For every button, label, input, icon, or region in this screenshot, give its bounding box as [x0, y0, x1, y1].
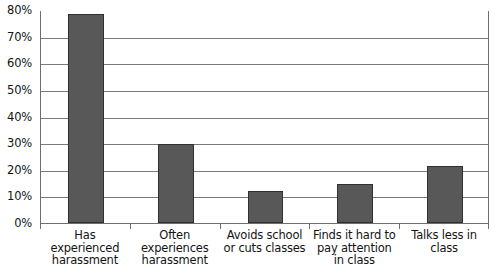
y-axis-tick-label: 20%: [7, 165, 32, 177]
y-axis-tick-label: 50%: [7, 85, 32, 97]
x-axis-category-label: Finds it hard topay attentionin class: [309, 229, 399, 266]
y-axis-tick-label: 10%: [7, 192, 32, 204]
x-axis-category-label-line: Avoids school: [220, 229, 310, 242]
y-axis-tick-label: 70%: [7, 32, 32, 44]
x-axis-category-label-line: Talks less in: [399, 229, 489, 242]
bar: [248, 191, 284, 223]
y-axis-tick-labels: 0%10%20%30%40%50%60%70%80%: [0, 0, 36, 224]
x-axis-category-label-line: Has: [40, 229, 130, 242]
bar-chart: 0%10%20%30%40%50%60%70%80% Hasexperience…: [0, 0, 495, 266]
x-axis-category-label: Oftenexperiencesharassment: [130, 229, 220, 266]
plot-area: [40, 11, 489, 224]
x-axis-category-label: Avoids schoolor cuts classes: [220, 229, 310, 254]
x-axis-category-label: Hasexperiencedharassment: [40, 229, 130, 266]
bar: [158, 144, 194, 223]
x-axis-category-label-line: class: [399, 242, 489, 255]
x-axis-category-label-line: or cuts classes: [220, 242, 310, 255]
x-axis-category-label-line: harassment: [130, 254, 220, 266]
y-axis-tick-label: 80%: [7, 5, 32, 17]
x-axis-category-labels: HasexperiencedharassmentOftenexperiences…: [40, 229, 489, 266]
bar: [337, 184, 373, 223]
x-axis-category-label-line: harassment: [40, 254, 130, 266]
x-axis-category-label: Talks less inclass: [399, 229, 489, 254]
bar: [68, 14, 104, 223]
bar: [427, 166, 463, 223]
y-axis-tick-label: 30%: [7, 138, 32, 150]
x-axis-category-label-line: Often: [130, 229, 220, 242]
y-axis-tick-label: 0%: [14, 218, 32, 230]
y-axis-tick-label: 60%: [7, 59, 32, 71]
y-axis-tick-label: 40%: [7, 112, 32, 124]
x-axis-category-label-line: Finds it hard to: [309, 229, 399, 242]
bars-group: [41, 11, 488, 223]
x-axis-category-label-line: in class: [309, 254, 399, 266]
